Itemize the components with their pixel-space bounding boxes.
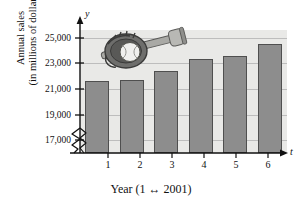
y-axis-title: Annual sales (in millions of dollars) [15, 0, 39, 103]
y-tick-label-19000: 19,000 [27, 110, 71, 120]
y-tick-label-17000: 17,000 [27, 135, 71, 145]
y-axis-title-line2: (in millions of dollars) [27, 0, 39, 85]
x-axis-title: Year (1 ↔ 2001) [0, 182, 302, 197]
x-tick-label-5: 5 [226, 159, 246, 170]
x-tick-label-4: 4 [194, 159, 214, 170]
y-axis-title-line1: Annual sales [15, 0, 27, 85]
x-tick-label-3: 3 [162, 159, 182, 170]
x-tick-label-1: 1 [98, 159, 118, 170]
x-tick-label-6: 6 [258, 159, 278, 170]
y-axis-letter: y [85, 8, 89, 19]
x-axis-letter: t [290, 146, 293, 157]
x-tick-label-2: 2 [130, 159, 150, 170]
bar-chart-figure: 25,000 23,000 21,000 19,000 17,000 1 2 3… [0, 0, 302, 208]
baseball-glove-and-bat-icon [0, 0, 302, 208]
